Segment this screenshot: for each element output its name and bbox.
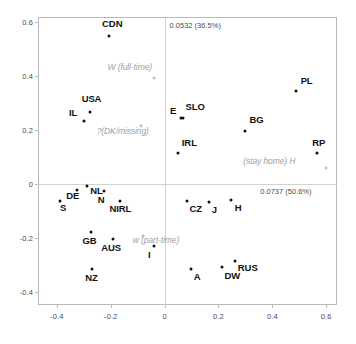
data-point-marker [88, 111, 91, 114]
data-point-marker [102, 190, 105, 193]
y-axis-tick-label: -0.4 [6, 287, 33, 296]
supplementary-point-label: w (part-time) [133, 235, 179, 245]
data-point-label: CDN [102, 18, 122, 29]
data-point-label: IRL [182, 137, 197, 148]
y-axis-tick-mark [35, 292, 38, 293]
data-point-marker [90, 231, 93, 234]
data-point-label: DE [66, 190, 79, 201]
data-point-marker [220, 266, 223, 269]
data-point-label: RP [312, 137, 325, 148]
y-axis-tick-mark [35, 22, 38, 23]
data-point-marker [230, 199, 233, 202]
data-point-label: USA [82, 93, 102, 104]
data-point-label: S [60, 202, 66, 213]
y-axis-tick-mark [35, 130, 38, 131]
data-point-marker [207, 201, 210, 204]
data-point-label: H [235, 202, 242, 213]
data-point-label: GB [82, 235, 96, 246]
data-point-label: RUS [238, 262, 258, 273]
y-axis-tick-label: -0.2 [6, 233, 33, 242]
data-point-label: AUS [101, 242, 121, 253]
data-point-marker [234, 259, 237, 262]
x-axis-tick-label: 0.2 [213, 312, 224, 321]
supplementary-point-marker [152, 77, 155, 80]
data-point-label: CZ [189, 203, 201, 214]
data-point-marker [108, 35, 111, 38]
data-point-marker [119, 199, 122, 202]
data-point-label: PL [301, 75, 313, 86]
data-point-marker [82, 120, 85, 123]
data-point-label: BG [249, 114, 263, 125]
data-point-label: A [194, 271, 201, 282]
supplementary-point-marker [325, 167, 328, 170]
supplementary-point-label: W (full-time) [107, 62, 152, 72]
correspondence-analysis-scatter-plot: 0.60.40.20-0.2-0.4-0.4-0.200.20.40.60.05… [0, 0, 356, 344]
data-point-marker [316, 152, 319, 155]
y-axis-tick-label: 0.4 [6, 72, 33, 81]
data-point-label: I [148, 249, 151, 260]
data-point-marker [244, 129, 247, 132]
data-point-marker [190, 267, 193, 270]
supplementary-point-label: ?(DK/missing) [97, 126, 149, 136]
dim1-inertia-annotation: 0.0737 (50.6%) [260, 187, 311, 196]
x-axis-tick-mark [57, 305, 58, 308]
y-axis-tick-mark [35, 76, 38, 77]
x-axis-tick-label: -0.4 [50, 312, 63, 321]
y-axis-tick-mark [35, 238, 38, 239]
x-axis-tick-label: -0.2 [104, 312, 117, 321]
axis-zero-horizontal-line [38, 184, 337, 185]
x-axis-tick-mark [272, 305, 273, 308]
data-point-label: NZ [85, 272, 97, 283]
data-point-marker [177, 152, 180, 155]
data-point-label: J [212, 204, 217, 215]
x-axis-tick-mark [326, 305, 327, 308]
data-point-marker [91, 268, 94, 271]
dim2-inertia-annotation: 0.0532 (36.5%) [170, 21, 221, 30]
data-point-label: E [170, 105, 176, 116]
x-axis-tick-label: 0.6 [321, 312, 332, 321]
data-point-label: DW [224, 270, 240, 281]
x-axis-tick-mark [111, 305, 112, 308]
axis-zero-vertical-line [165, 17, 166, 305]
y-axis-tick-label: 0.2 [6, 126, 33, 135]
y-axis-tick-label: 0 [6, 179, 33, 188]
y-axis-tick-mark [35, 184, 38, 185]
data-point-marker [86, 185, 89, 188]
x-axis-tick-label: 0 [162, 312, 166, 321]
data-point-marker [294, 90, 297, 93]
data-point-marker [152, 245, 155, 248]
data-point-marker [181, 116, 184, 119]
data-point-label: NIRL [109, 203, 131, 214]
x-axis-tick-mark [165, 305, 166, 308]
data-point-label: SLO [186, 101, 205, 112]
y-axis-tick-label: 0.6 [6, 18, 33, 27]
supplementary-point-label: (stay home) H [243, 156, 295, 166]
x-axis-tick-mark [218, 305, 219, 308]
data-point-label: N [98, 194, 105, 205]
data-point-marker [111, 237, 114, 240]
data-point-label: IL [69, 107, 77, 118]
data-point-marker [185, 199, 188, 202]
x-axis-tick-label: 0.4 [267, 312, 278, 321]
